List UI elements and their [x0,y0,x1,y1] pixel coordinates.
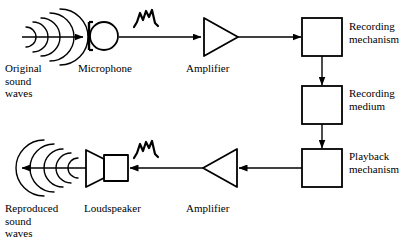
label-original-sound-waves: Original sound waves [5,62,42,100]
microphone-icon [89,22,118,50]
label-amplifier-top: Amplifier [186,62,229,75]
waveform-bottom-icon [134,141,158,158]
recording-medium-box [302,86,342,124]
label-microphone: Microphone [78,62,132,75]
label-recording-mechanism: Recording mechanism [349,20,399,45]
playback-mechanism-box [302,149,342,187]
loudspeaker-icon [86,150,128,187]
diagram-canvas: Original sound waves Microphone Amplifie… [0,0,408,239]
label-reproduced-sound-waves: Reproduced sound waves [5,202,58,239]
label-amplifier-bottom: Amplifier [186,202,229,215]
waveform-top-icon [134,10,158,27]
label-playback-mechanism: Playback mechanism [349,150,399,175]
recording-mechanism-box [302,18,342,56]
label-loudspeaker: Loudspeaker [84,202,141,215]
amplifier-top-icon [204,18,238,56]
amplifier-bottom-icon [203,149,237,187]
label-recording-medium: Recording medium [349,87,395,112]
